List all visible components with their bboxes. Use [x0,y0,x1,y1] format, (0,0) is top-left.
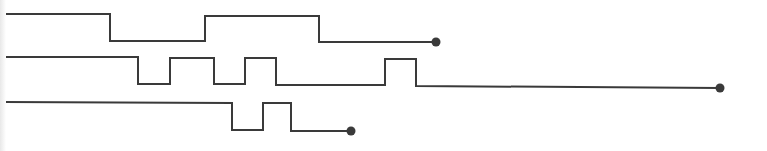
signal-2-waveform [5,57,720,88]
signal-3-waveform [4,102,351,131]
signal-1-endpoint-dot-icon [432,38,441,47]
waveform-canvas [0,0,767,151]
signal-1-waveform [5,14,436,42]
signal-3-endpoint-dot-icon [347,127,356,136]
waveform-diagram [0,0,767,151]
left-edge-shadow [0,0,6,151]
signal-2-endpoint-dot-icon [716,84,725,93]
